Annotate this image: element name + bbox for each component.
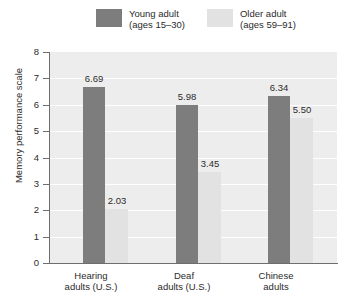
value-label-older-chinese: 5.50 [284,105,320,115]
chart-legend: Young adult (ages 15–30) Older adult (ag… [96,8,296,31]
x-axis-line [49,263,338,264]
bar-older-hearing [105,209,128,263]
bar-young-hearing [83,87,105,263]
y-tick-3 [43,184,49,185]
legend-label-young-adult-line2: (ages 15–30) [129,19,185,30]
legend-label-older-adult-line1: Older adult [240,8,286,19]
y-tick-8 [43,52,49,53]
x-category-hearing-line1: Hearing [74,270,107,281]
value-label-young-hearing: 6.69 [76,74,112,84]
y-tick-4 [43,158,49,159]
y-tick-0 [43,263,49,264]
legend-swatch-young-adult-icon [96,9,122,27]
legend-item-older-adult: Older adult (ages 59–91) [207,8,296,31]
y-tick-2 [43,210,49,211]
bar-young-deaf [176,105,198,263]
legend-label-young-adult: Young adult (ages 15–30) [129,8,185,31]
x-category-deaf-line1: Deaf [174,270,194,281]
y-tick-6 [43,105,49,106]
y-tick-5 [43,131,49,132]
y-tick-label-2: 2 [19,205,39,215]
value-label-young-chinese: 6.34 [261,83,297,93]
legend-item-young-adult: Young adult (ages 15–30) [96,8,185,31]
y-axis-line [49,52,50,264]
x-category-chinese-line1: Chinese [259,270,294,281]
y-tick-1 [43,237,49,238]
y-axis-title: Memory performance scale [13,46,24,206]
legend-swatch-older-adult-icon [207,9,233,27]
value-label-older-deaf: 3.45 [192,159,228,169]
value-label-older-hearing: 2.03 [99,196,135,206]
y-tick-7 [43,78,49,79]
value-label-young-deaf: 5.98 [169,92,205,102]
x-category-label-deaf: Deaf adults (U.S.) [139,270,229,293]
x-category-label-chinese: Chinese adults [231,270,321,293]
plot-area: 6.69 2.03 5.98 3.45 6.34 5.50 [50,52,337,263]
bar-older-chinese [290,118,313,263]
legend-label-older-adult-line2: (ages 59–91) [240,19,296,30]
legend-label-young-adult-line1: Young adult [129,8,179,19]
x-category-deaf-line2: adults (U.S.) [158,281,211,292]
bar-young-chinese [268,96,290,263]
bar-older-deaf [198,172,221,263]
x-category-hearing-line2: adults (U.S.) [65,281,118,292]
x-category-label-hearing: Hearing adults (U.S.) [46,270,136,293]
y-tick-label-0: 0 [19,258,39,268]
x-category-chinese-line2: adults [263,281,288,292]
legend-label-older-adult: Older adult (ages 59–91) [240,8,296,31]
y-tick-label-1: 1 [19,232,39,242]
